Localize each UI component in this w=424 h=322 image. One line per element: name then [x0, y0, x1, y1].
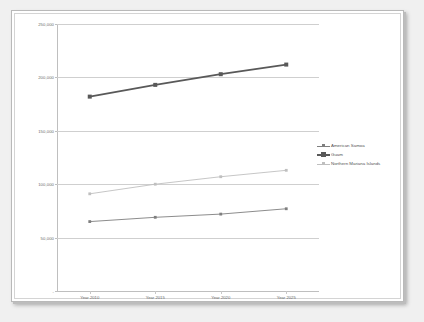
series-data-point[interactable]: [284, 63, 288, 67]
legend-item-northern-mariana-islands[interactable]: Northern Mariana Islands: [317, 160, 401, 168]
series-data-point[interactable]: [285, 169, 288, 172]
line-chart[interactable]: -50,000100,000150,000200,000250,000 Year…: [15, 14, 400, 298]
legend-marker-guam: [317, 152, 330, 159]
legend-label-american-samoa: American Samoa: [331, 143, 365, 149]
legend-item-guam[interactable]: Guam: [317, 151, 401, 159]
chart-legend[interactable]: American Samoa Guam: [317, 142, 401, 169]
legend-label-guam: Guam: [331, 152, 343, 158]
series-data-point[interactable]: [88, 95, 92, 99]
legend-label-northern-mariana-islands: Northern Mariana Islands: [331, 161, 380, 167]
series-data-point[interactable]: [153, 83, 157, 87]
series-line: [90, 65, 287, 97]
series-data-point[interactable]: [219, 72, 223, 76]
series-line: [90, 170, 287, 193]
series-guam: [88, 63, 289, 99]
chart-window-inner: -50,000100,000150,000200,000250,000 Year…: [14, 13, 401, 299]
series-line: [90, 209, 287, 222]
series-data-point[interactable]: [154, 183, 157, 186]
legend-marker-american-samoa: [317, 143, 330, 150]
series-data-point[interactable]: [88, 192, 91, 195]
series-american-samoa: [88, 207, 287, 223]
series-data-point[interactable]: [285, 207, 288, 210]
legend-marker-northern-mariana-islands: [317, 161, 330, 168]
chart-window-frame: -50,000100,000150,000200,000250,000 Year…: [11, 10, 404, 302]
series-data-point[interactable]: [154, 216, 157, 219]
legend-item-american-samoa[interactable]: American Samoa: [317, 142, 401, 150]
series-data-point[interactable]: [219, 175, 222, 178]
series-northern-mariana-islands: [88, 169, 287, 195]
series-data-point[interactable]: [219, 213, 222, 216]
series-data-point[interactable]: [88, 220, 91, 223]
screenshot-root: -50,000100,000150,000200,000250,000 Year…: [0, 0, 424, 322]
